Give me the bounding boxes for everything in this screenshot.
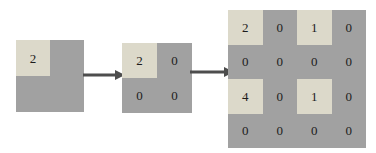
matrix-cell (50, 76, 84, 112)
matrix-2x2: 2000 (122, 43, 192, 113)
matrix-cell: 0 (157, 43, 192, 78)
matrix-cell: 0 (332, 114, 367, 149)
matrix-cell: 2 (122, 43, 157, 78)
matrix-cell: 4 (228, 79, 263, 114)
matrix-cell: 0 (297, 114, 332, 149)
matrix-cell: 0 (157, 78, 192, 113)
matrix-cell: 0 (263, 45, 298, 80)
matrix-cell: 0 (263, 114, 298, 149)
upsampling-diagram: 2 2000 2010000040100000 (0, 0, 376, 153)
matrix-cell: 0 (228, 114, 263, 149)
matrix-cell (50, 40, 84, 76)
matrix-cell: 1 (297, 79, 332, 114)
matrix-cell: 1 (297, 10, 332, 45)
matrix-cell: 0 (332, 79, 367, 114)
matrix-cell: 0 (332, 10, 367, 45)
matrix-cell: 0 (263, 79, 298, 114)
matrix-cell: 0 (332, 45, 367, 80)
matrix-cell: 0 (297, 45, 332, 80)
matrix-cell: 0 (122, 78, 157, 113)
matrix-cell: 2 (16, 40, 50, 76)
matrix-cell (16, 76, 50, 112)
matrix-cell: 2 (228, 10, 263, 45)
matrix-cell: 0 (228, 45, 263, 80)
input-matrix-1x1: 2 (16, 40, 84, 112)
arrow-right-icon (83, 68, 125, 82)
matrix-4x4: 2010000040100000 (228, 10, 366, 148)
matrix-cell: 0 (263, 10, 298, 45)
